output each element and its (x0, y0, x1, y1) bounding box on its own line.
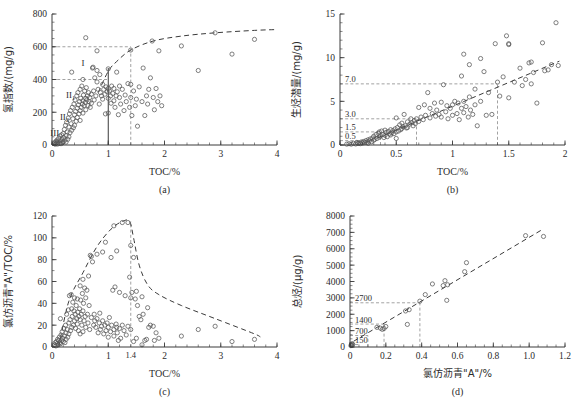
data-point (479, 99, 483, 103)
data-point (120, 323, 124, 327)
data-point (107, 315, 111, 319)
zone-label-I: I (81, 58, 84, 68)
data-point (117, 290, 121, 294)
data-point (140, 100, 144, 104)
data-point (482, 70, 486, 74)
x-axis-title-b: TOC/% (437, 166, 468, 177)
data-point (86, 321, 90, 325)
data-point (84, 36, 88, 40)
data-point (441, 283, 445, 287)
scatter-points-a (52, 31, 256, 147)
data-point (144, 94, 148, 98)
data-point (82, 319, 86, 323)
data-point (498, 94, 502, 98)
data-point (152, 338, 156, 342)
panel-c: 012340204060801001201.4TOC/%氯仿沥青"A"/TOC/… (0, 202, 289, 405)
data-point (148, 76, 152, 80)
data-point (115, 331, 119, 335)
x-tick-label: 3 (218, 149, 223, 159)
data-point (196, 327, 200, 331)
data-point (423, 113, 427, 117)
x-tick-label: 4 (275, 351, 280, 361)
data-point (146, 306, 150, 310)
x-tick-label: 4 (275, 149, 280, 159)
data-point (78, 118, 82, 122)
data-point (84, 325, 88, 329)
threshold-label-d-1: 1400 (355, 315, 372, 325)
y-axis-title-a: 氢指数/(mg/g) (2, 46, 14, 113)
y-tick-label: 0 (42, 140, 47, 150)
data-point (230, 339, 234, 343)
data-point (437, 112, 441, 116)
y-tick-label: 4000 (326, 277, 345, 287)
trend-curve-a (98, 30, 277, 93)
data-point (421, 118, 425, 122)
data-point (455, 111, 459, 115)
data-point (422, 103, 426, 107)
data-point (158, 94, 162, 98)
data-point (70, 314, 74, 318)
x-tick-label: 0 (50, 149, 55, 159)
data-point (147, 87, 151, 91)
data-point (435, 108, 439, 112)
data-point (90, 260, 94, 264)
data-point (81, 301, 85, 305)
data-point (467, 95, 471, 99)
y-axis-title-b: 生烃潜量/(mg/g) (290, 41, 302, 118)
data-point (432, 101, 436, 105)
data-point (507, 96, 511, 100)
data-point (524, 77, 528, 81)
data-point (157, 336, 161, 340)
data-point (92, 98, 96, 102)
data-point (484, 113, 488, 117)
y-tick-label: 6000 (326, 244, 345, 254)
x-tick-label: 1.0 (523, 351, 535, 361)
data-point (97, 102, 101, 106)
data-point (518, 66, 522, 70)
data-point (124, 100, 128, 104)
y-tick-label: 60 (38, 277, 48, 287)
data-point (126, 220, 130, 224)
data-point (110, 323, 114, 327)
y-tick-label: 40 (38, 299, 48, 309)
zone-label-III: III (50, 128, 59, 138)
x-marker-label-c: 1.4 (125, 350, 136, 360)
data-point (134, 97, 138, 101)
data-point (520, 84, 524, 88)
data-point (140, 295, 144, 299)
data-point (471, 112, 475, 116)
data-point (179, 334, 183, 338)
data-point (62, 127, 66, 131)
data-point (464, 261, 468, 265)
data-point (504, 34, 508, 38)
x-tick-label: 0.4 (416, 351, 428, 361)
threshold-label-b-1: 3.0 (345, 109, 356, 119)
data-point (109, 101, 113, 105)
data-point (84, 108, 88, 112)
data-point (428, 106, 432, 110)
data-point (141, 66, 145, 70)
y-tick-label: 7000 (326, 228, 345, 238)
data-point (84, 296, 88, 300)
data-point (109, 255, 113, 259)
y-tick-label: 5 (330, 97, 335, 107)
x-tick-label: 1.5 (503, 149, 515, 159)
x-axis-title-c: TOC/% (149, 368, 180, 379)
y-tick-label: 10 (326, 53, 336, 63)
data-point (134, 289, 138, 293)
data-point (92, 89, 96, 93)
data-point (475, 124, 479, 128)
x-tick-label: 0.5 (390, 149, 402, 159)
panel-caption-d: (d) (452, 386, 464, 398)
data-point (80, 291, 84, 295)
data-point (152, 108, 156, 112)
y-tick-label: 100 (33, 233, 48, 243)
data-point (124, 333, 128, 337)
data-point (556, 63, 560, 67)
y-axis-title-c: 氯仿沥青"A"/TOC/% (2, 235, 14, 328)
y-tick-label: 20 (38, 321, 48, 331)
data-point (112, 99, 116, 103)
data-point (468, 108, 472, 112)
y-tick-label: 5000 (326, 261, 345, 271)
data-point (126, 81, 130, 85)
